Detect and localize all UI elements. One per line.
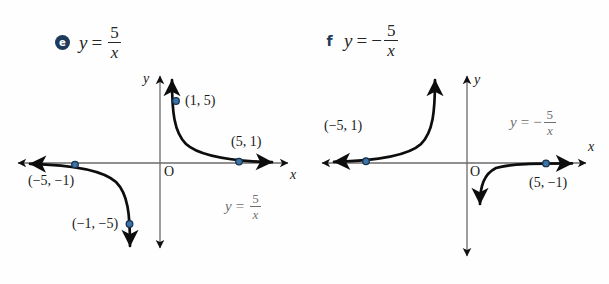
marker-point-neg5-neg1 (72, 161, 79, 168)
marker-point-5-1 (236, 158, 243, 165)
point-label-5-neg1: (5, −1) (529, 176, 567, 190)
origin-label-e: O (164, 165, 174, 179)
inline-fraction-numerator: 5 (544, 108, 557, 122)
inline-equation-lhs: y (225, 198, 232, 215)
origin-label-f: O (470, 165, 480, 179)
inline-equation-operator: = (236, 198, 244, 215)
point-label-1-5: (1, 5) (185, 94, 215, 108)
marker-point-1-5 (173, 98, 180, 105)
point-label-neg1-neg5: (−1, −5) (72, 217, 118, 231)
inline-equation-fraction: 5 x (544, 108, 557, 137)
worksheet-page: e y = 5 x (0, 0, 609, 284)
inline-fraction-numerator: 5 (249, 192, 262, 206)
inline-equation-fraction: 5 x (249, 192, 262, 221)
inline-equation-f: y = − 5 x (510, 108, 557, 137)
marker-point-neg1-neg5 (126, 221, 133, 228)
y-axis-label-e: y (143, 72, 149, 86)
point-label-neg5-neg1: (−5, −1) (28, 174, 74, 188)
marker-point-neg5-1 (363, 158, 370, 165)
inline-equation-e: y = 5 x (225, 192, 263, 221)
inline-fraction-denominator: x (544, 122, 556, 137)
x-axis-label-e: x (290, 168, 296, 182)
marker-point-5-neg1 (543, 160, 550, 167)
inline-fraction-denominator: x (250, 206, 262, 221)
exercise-panel-f: f y = − 5 x (304, 0, 609, 284)
exercise-panel-e: e y = 5 x (0, 0, 305, 284)
inline-equation-negative-sign: − (533, 114, 541, 131)
graph-f (304, 0, 609, 284)
x-axis-label-f: x (588, 140, 594, 154)
point-label-neg5-1: (−5, 1) (324, 119, 362, 133)
y-axis-label-f: y (474, 73, 480, 87)
graph-f-svg (304, 0, 609, 284)
inline-equation-lhs: y (510, 114, 517, 131)
point-label-5-1: (5, 1) (231, 135, 261, 149)
inline-equation-operator: = (521, 114, 529, 131)
